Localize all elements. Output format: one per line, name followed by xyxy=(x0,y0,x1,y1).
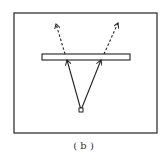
diagram-figure xyxy=(0,0,167,163)
outer-frame xyxy=(14,13,157,133)
transmitted-ray-left xyxy=(56,24,65,54)
light-rays xyxy=(56,23,118,110)
incident-ray-left xyxy=(67,60,81,110)
incident-ray-right xyxy=(81,60,101,110)
glass-plate xyxy=(42,54,130,60)
figure-caption: ( b ) xyxy=(0,140,167,151)
point-source xyxy=(79,108,83,112)
transmitted-ray-right xyxy=(104,23,118,54)
